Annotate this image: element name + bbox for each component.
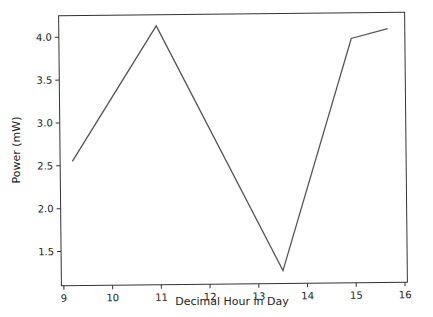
x-tick-label: 10 (106, 292, 119, 303)
y-tick-label: 2.0 (38, 203, 54, 214)
line-chart: 910111213141516 1.52.02.53.03.54.0 Decim… (0, 0, 433, 317)
y-axis: 1.52.02.53.03.54.0 (36, 32, 61, 258)
y-tick-label: 1.5 (38, 246, 54, 257)
y-tick-label: 3.5 (36, 75, 52, 86)
y-tick-label: 2.5 (37, 160, 53, 171)
x-tick-label: 14 (301, 290, 314, 301)
x-tick-label: 15 (350, 290, 363, 301)
plot-area (59, 12, 408, 286)
x-axis-label: Decimal Hour in Day (175, 295, 289, 308)
x-tick-label: 11 (155, 292, 168, 303)
y-tick-label: 3.0 (37, 118, 53, 129)
y-tick-label: 4.0 (36, 32, 52, 43)
x-tick-label: 16 (399, 289, 412, 300)
x-tick-label: 9 (61, 293, 67, 304)
y-axis-label: Power (mW) (10, 117, 23, 184)
